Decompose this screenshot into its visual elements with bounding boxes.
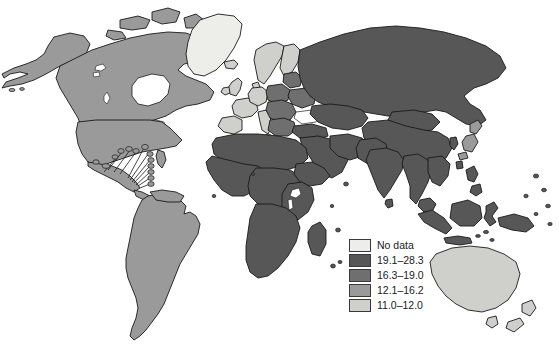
region-sulawesi bbox=[484, 202, 498, 226]
inland-lake bbox=[93, 72, 100, 77]
aleutian-island-dot bbox=[20, 88, 25, 91]
region-japan bbox=[458, 152, 468, 160]
legend-swatch-no-data bbox=[349, 239, 371, 252]
pacific-island-dot bbox=[533, 174, 538, 178]
region-philippines bbox=[470, 184, 482, 196]
region-myanmar-thailand bbox=[402, 154, 432, 204]
legend-label-band-11-0-12-0: 11.0–12.0 bbox=[377, 299, 423, 312]
region-arctic-islands bbox=[120, 16, 150, 30]
lake-tanganyika bbox=[288, 199, 293, 210]
legend-swatch-band-16-3-19-0 bbox=[349, 269, 371, 282]
region-tasmania bbox=[486, 316, 498, 328]
region-balkans bbox=[268, 118, 296, 136]
region-indochina bbox=[428, 156, 450, 186]
region-madagascar bbox=[308, 222, 326, 256]
pacific-island-dot bbox=[338, 260, 342, 263]
aleutian-island-dot bbox=[9, 88, 15, 91]
legend-swatch-band-12-1-16-2 bbox=[349, 284, 371, 297]
region-taiwan bbox=[456, 161, 463, 169]
legend-label-band-12-1-16-2: 12.1–16.2 bbox=[377, 284, 424, 297]
pacific-island-dot bbox=[548, 222, 552, 225]
region-south-america bbox=[126, 194, 200, 340]
atlantic-island-dot bbox=[212, 194, 216, 197]
region-sumatra bbox=[418, 210, 452, 234]
region-philippines bbox=[466, 166, 478, 182]
legend-item-band-16-3-19-0: 16.3–19.0 bbox=[349, 268, 441, 283]
atlantic-island-dot bbox=[251, 173, 254, 176]
legend-label-band-19-1-28-3: 19.1–28.3 bbox=[377, 254, 424, 267]
region-arctic-islands bbox=[152, 8, 180, 24]
legend-swatch-band-11-0-12-0 bbox=[349, 299, 371, 312]
legend-item-band-19-1-28-3: 19.1–28.3 bbox=[349, 253, 441, 268]
region-arctic-islands bbox=[106, 30, 126, 40]
region-new-zealand bbox=[506, 318, 524, 332]
pacific-island-dot bbox=[534, 212, 538, 215]
region-papua-new-guinea bbox=[498, 214, 534, 232]
island-dot bbox=[476, 235, 481, 238]
region-new-zealand bbox=[522, 300, 536, 316]
region-finland bbox=[280, 44, 300, 76]
pacific-island-dot bbox=[331, 264, 336, 268]
island-dot bbox=[490, 239, 494, 242]
pacific-island-dot bbox=[542, 188, 547, 192]
legend-item-band-11-0-12-0: 11.0–12.0 bbox=[349, 298, 441, 313]
region-malaysia bbox=[418, 198, 436, 212]
indian-ocean-island-dot bbox=[330, 204, 334, 207]
region-java bbox=[444, 236, 472, 245]
region-borneo bbox=[450, 200, 482, 226]
region-india bbox=[366, 148, 404, 198]
map-legend: No data 19.1–28.3 16.3–19.0 12.1–16.2 11… bbox=[349, 238, 441, 313]
region-iberia bbox=[218, 116, 242, 134]
island-dot bbox=[483, 230, 488, 233]
region-florida bbox=[156, 150, 166, 168]
pacific-island-dot bbox=[344, 182, 349, 186]
region-japan bbox=[462, 134, 478, 152]
legend-item-no-data: No data bbox=[349, 238, 441, 253]
legend-item-band-12-1-16-2: 12.1–16.2 bbox=[349, 283, 441, 298]
region-australia bbox=[430, 246, 520, 312]
region-ireland bbox=[221, 87, 230, 95]
legend-swatch-band-19-1-28-3 bbox=[349, 254, 371, 267]
legend-label-band-16-3-19-0: 16.3–19.0 bbox=[377, 269, 424, 282]
region-sri-lanka bbox=[385, 199, 393, 208]
world-map-graphic bbox=[0, 0, 559, 364]
legend-label-no-data: No data bbox=[377, 239, 414, 252]
pacific-island-dot bbox=[546, 204, 551, 208]
pacific-island-dot bbox=[336, 228, 341, 232]
world-choropleth-map: No data 19.1–28.3 16.3–19.0 12.1–16.2 11… bbox=[0, 0, 559, 364]
pacific-island-dot bbox=[524, 194, 528, 198]
region-iceland bbox=[224, 60, 238, 69]
region-scandinavia bbox=[254, 42, 284, 84]
region-southern-africa bbox=[246, 204, 300, 278]
